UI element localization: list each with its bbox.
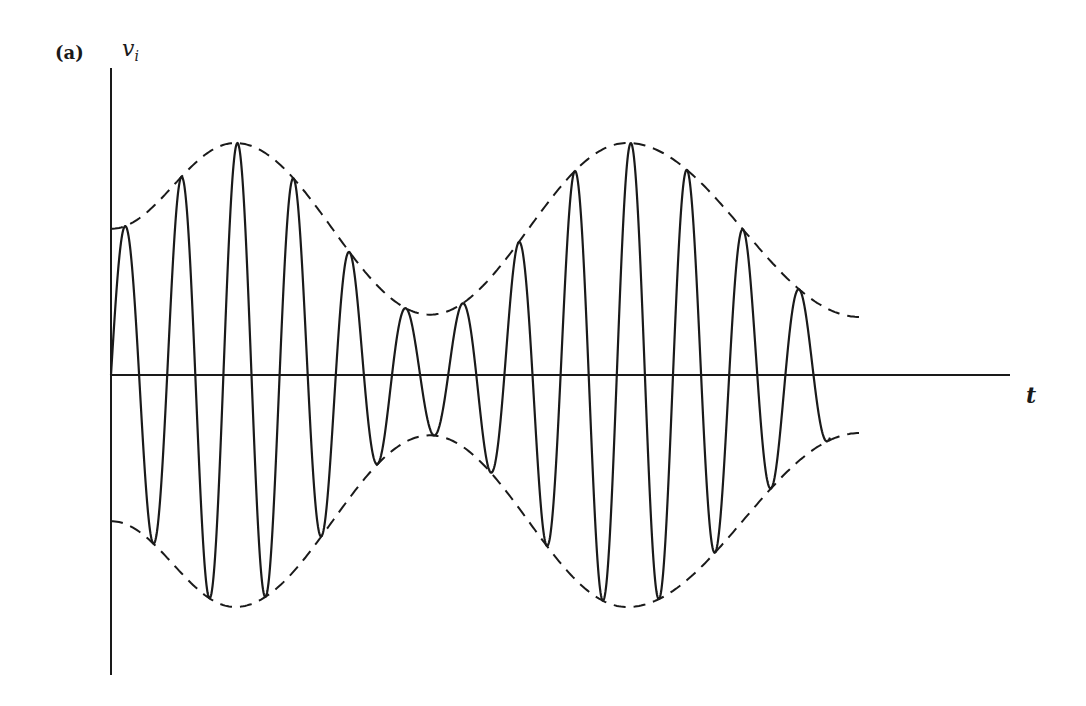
y-axis-label: vi [122, 36, 139, 64]
panel-label: (a) [55, 42, 84, 63]
carrier-line [111, 143, 830, 601]
am-waveform-figure [0, 0, 1086, 706]
upper-envelope [111, 143, 859, 317]
lower-envelope [111, 433, 859, 607]
carrier-waveform [111, 143, 830, 601]
x-axis-label: t [1026, 382, 1036, 408]
